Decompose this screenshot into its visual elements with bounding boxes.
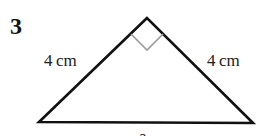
side-right-label: 4 cm <box>207 52 240 70</box>
side-left-label: 4 cm <box>44 52 77 70</box>
right-angle-marker-icon <box>131 34 163 50</box>
triangle-shape <box>39 18 253 123</box>
base-label: a <box>139 128 147 136</box>
question-figure: 3 4 cm 4 cm a <box>0 0 261 136</box>
